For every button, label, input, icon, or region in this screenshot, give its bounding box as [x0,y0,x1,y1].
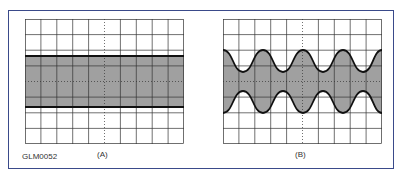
scope-panel-b [223,19,382,144]
panel-a-caption: (A) [97,150,108,159]
scope-panel-a [25,19,184,144]
figure-id: GLM0052 [22,152,57,161]
panel-b-caption: (B) [295,150,306,159]
